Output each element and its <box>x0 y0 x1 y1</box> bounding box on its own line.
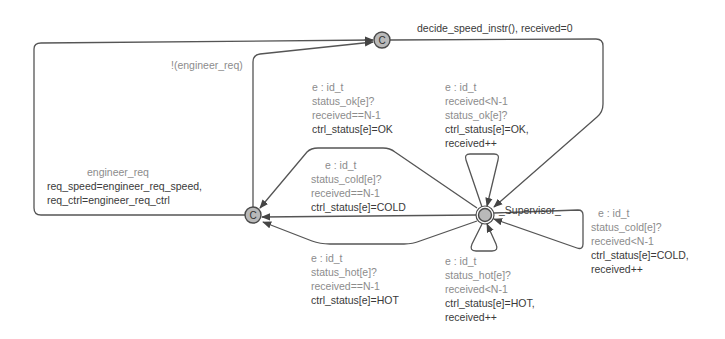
guard-text: engineer_req <box>47 165 202 179</box>
sync-text: status_hot[e]? <box>311 265 399 279</box>
edge-sup-cold-final[interactable] <box>262 215 476 217</box>
label-sup-ok-final: e : id_t status_ok[e]? received==N-1 ctr… <box>312 80 393 136</box>
location-supervisor[interactable] <box>476 206 494 224</box>
label-top-to-supervisor: decide_speed_instr(), received=0 <box>417 21 573 35</box>
select-text: e : id_t <box>312 80 393 94</box>
update-text: received++ <box>591 262 689 276</box>
guard-text: !(engineer_req) <box>171 58 243 72</box>
committed-marker: C <box>249 210 256 221</box>
select-text: e : id_t <box>445 80 529 94</box>
select-text: e : id_t <box>311 158 406 172</box>
sync-text: status_cold[e]? <box>591 220 689 234</box>
location-top-committed[interactable]: C <box>374 32 390 48</box>
label-sup-hot-loop: e : id_t status_hot[e]? received<N-1 ctr… <box>445 254 535 324</box>
update-text: received++ <box>445 310 535 324</box>
edge-sup-hot-loop[interactable] <box>471 224 497 251</box>
sync-text: status_hot[e]? <box>445 268 535 282</box>
label-sup-cold-final: e : id_t status_cold[e]? received==N-1 c… <box>311 158 406 214</box>
sync-text: status_ok[e]? <box>312 94 393 108</box>
guard-text: received<N-1 <box>445 282 535 296</box>
guard-text: received==N-1 <box>311 279 399 293</box>
update-text: received++ <box>445 136 529 150</box>
update-text: ctrl_status[e]=HOT, <box>445 296 535 310</box>
update-text: ctrl_status[e]=COLD <box>311 200 406 214</box>
select-text: e : id_t <box>311 251 399 265</box>
edge-sup-hot-final[interactable] <box>263 221 477 244</box>
location-name: _Supervisor_ <box>499 203 561 217</box>
select-text: e : id_t <box>591 206 689 220</box>
select-text: e : id_t <box>445 254 535 268</box>
update-text: ctrl_status[e]=OK, <box>445 122 529 136</box>
update-text: decide_speed_instr(), received=0 <box>417 21 573 35</box>
update-text: ctrl_status[e]=COLD, <box>591 248 689 262</box>
edge-sup-ok-loop[interactable] <box>466 154 499 207</box>
update-text: req_speed=engineer_req_speed, <box>47 179 202 193</box>
update-text: ctrl_status[e]=OK <box>312 122 393 136</box>
label-no-engineer-req: !(engineer_req) <box>171 58 243 72</box>
committed-marker: C <box>378 35 385 46</box>
update-text: ctrl_status[e]=HOT <box>311 293 399 307</box>
location-name-supervisor: _Supervisor_ <box>499 203 561 217</box>
guard-text: received<N-1 <box>445 94 529 108</box>
label-engineer-req: engineer_req req_speed=engineer_req_spee… <box>47 165 202 207</box>
sync-text: status_cold[e]? <box>311 172 406 186</box>
guard-text: received==N-1 <box>311 186 406 200</box>
label-sup-hot-final: e : id_t status_hot[e]? received==N-1 ct… <box>311 251 399 307</box>
guard-text: received==N-1 <box>312 108 393 122</box>
label-sup-cold-loop: e : id_t status_cold[e]? received<N-1 ct… <box>591 206 689 276</box>
sync-text: status_ok[e]? <box>445 108 529 122</box>
update-text: req_ctrl=engineer_req_ctrl <box>47 193 202 207</box>
guard-text: received<N-1 <box>591 234 689 248</box>
label-sup-ok-loop: e : id_t received<N-1 status_ok[e]? ctrl… <box>445 80 529 150</box>
location-left-committed[interactable]: C <box>245 207 261 223</box>
